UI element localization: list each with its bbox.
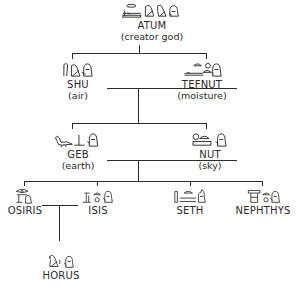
osiris-isis-stem-line xyxy=(59,205,60,241)
nephthys-hieroglyphs-icon xyxy=(243,188,283,204)
node-name: HORUS xyxy=(42,270,79,281)
nut-drop-line xyxy=(206,123,207,129)
geb-drop-line xyxy=(72,123,73,129)
seth-drop-line xyxy=(190,181,191,186)
node-osiris: OSIRIS xyxy=(8,188,43,216)
osiris-hieroglyphs-icon xyxy=(12,188,38,204)
seth-hieroglyphs-icon xyxy=(170,188,210,204)
node-name: ISIS xyxy=(78,205,118,216)
node-subtitle: (moisture) xyxy=(177,90,226,101)
node-name: NEPHTHYS xyxy=(235,205,290,216)
tefnut-drop-line xyxy=(206,53,207,59)
nut-hieroglyphs-icon xyxy=(190,132,230,148)
atum-stem-line xyxy=(139,45,140,53)
node-subtitle: (air) xyxy=(61,90,95,101)
geb-nut-children-bar xyxy=(24,181,263,182)
node-subtitle: (sky) xyxy=(190,160,230,171)
node-geb: GEB (earth) xyxy=(52,132,104,171)
atum-children-bar xyxy=(72,53,207,54)
shu-tefnut-stem-line xyxy=(138,88,139,123)
node-subtitle: (earth) xyxy=(52,160,104,171)
node-shu: SHU (air) xyxy=(61,62,95,101)
node-horus: HORUS xyxy=(42,253,79,281)
nephthys-drop-line xyxy=(262,181,263,186)
node-nut: NUT (sky) xyxy=(190,132,230,171)
shu-tefnut-children-bar xyxy=(72,123,207,124)
node-name: GEB xyxy=(52,149,104,160)
shu-drop-line xyxy=(72,53,73,59)
atum-hieroglyphs-icon xyxy=(120,3,184,19)
shu-hieroglyphs-icon xyxy=(61,62,95,78)
node-atum: ATUM (creator god) xyxy=(120,3,184,42)
node-isis: ISIS xyxy=(78,188,118,216)
node-seth: SETH xyxy=(170,188,210,216)
node-name: TEFNUT xyxy=(177,79,226,90)
shu-tefnut-couple-line xyxy=(107,88,137,89)
node-name: SETH xyxy=(170,205,210,216)
tefnut-hieroglyphs-icon xyxy=(181,62,223,78)
node-name: OSIRIS xyxy=(8,205,43,216)
node-subtitle: (creator god) xyxy=(120,31,184,42)
node-name: SHU xyxy=(61,79,95,90)
node-nephthys: NEPHTHYS xyxy=(235,188,290,216)
osiris-drop-line xyxy=(24,181,25,186)
node-tefnut: TEFNUT (moisture) xyxy=(177,62,226,101)
osiris-isis-couple-line xyxy=(42,205,78,206)
geb-hieroglyphs-icon xyxy=(52,132,104,148)
isis-hieroglyphs-icon xyxy=(78,188,118,204)
node-name: ATUM xyxy=(120,20,184,31)
horus-hieroglyphs-icon xyxy=(44,253,78,269)
geb-nut-stem-line xyxy=(138,160,139,181)
node-name: NUT xyxy=(190,149,230,160)
isis-drop-line xyxy=(97,181,98,186)
